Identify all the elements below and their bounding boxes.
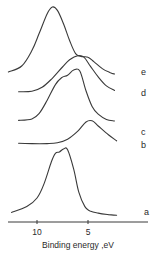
spectrum-curve-c <box>19 69 115 121</box>
curve-label-e: e <box>141 67 146 77</box>
spectrum-curve-b <box>19 120 117 143</box>
curve-label-b: b <box>141 140 146 150</box>
curve-labels: abcde <box>141 67 149 217</box>
x-axis-ticks: 105 <box>32 220 90 237</box>
spectrum-curve-e <box>8 7 114 74</box>
x-axis-label: Binding energy ,eV <box>42 240 114 250</box>
spectrum-curve-d <box>19 56 115 92</box>
x-tick-label-10: 10 <box>32 227 42 237</box>
spectra-curves <box>8 7 116 215</box>
curve-label-c: c <box>141 127 146 137</box>
curve-label-d: d <box>141 88 146 98</box>
x-tick-label-5: 5 <box>86 227 91 237</box>
xps-spectra-chart: abcde 105 Binding energy ,eV <box>0 0 156 254</box>
spectrum-curve-a <box>12 148 117 215</box>
curve-label-a: a <box>144 207 149 217</box>
